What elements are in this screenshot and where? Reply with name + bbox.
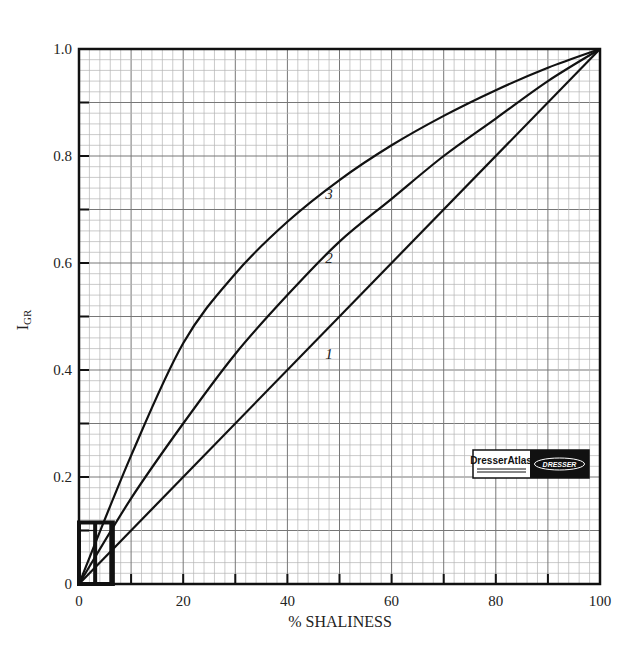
y-axis-title: IGR — [14, 309, 33, 330]
y-tick-label: 0.8 — [53, 148, 72, 164]
x-tick-label: 80 — [488, 593, 503, 609]
chart: 020406080100 00.20.40.60.81.0 123 % SHAL… — [0, 0, 643, 662]
y-tick-label: 0 — [65, 576, 73, 592]
x-tick-label: 100 — [589, 593, 612, 609]
y-tick-label: 0.4 — [53, 362, 72, 378]
y-tick-label: 1.0 — [53, 41, 72, 57]
curve-label-3: 3 — [324, 186, 333, 202]
logo-right-text: DRESSER — [543, 461, 577, 468]
x-tick-label: 40 — [280, 593, 295, 609]
dresser-atlas-logo: DresserAtlas DRESSER — [470, 450, 589, 478]
logo-left-text: DresserAtlas — [470, 455, 532, 466]
x-tick-label: 0 — [75, 593, 83, 609]
curve-label-1: 1 — [325, 346, 333, 362]
y-tick-label: 0.2 — [53, 469, 72, 485]
y-tick-label: 0.6 — [53, 255, 72, 271]
x-tick-labels: 020406080100 — [75, 593, 611, 609]
y-tick-labels: 00.20.40.60.81.0 — [53, 41, 72, 592]
x-axis-title: % SHALINESS — [288, 613, 392, 630]
x-tick-label: 20 — [176, 593, 191, 609]
x-tick-label: 60 — [384, 593, 399, 609]
curve-label-2: 2 — [325, 250, 333, 266]
